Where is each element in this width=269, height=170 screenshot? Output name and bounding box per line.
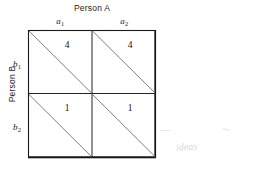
payoff-value-r0c1: 4 — [121, 40, 139, 50]
matrix-grid — [0, 0, 269, 170]
payoff-value-r0c0: 4 — [58, 40, 76, 50]
payoff-value-r1c1: 1 — [121, 103, 139, 113]
payoff-matrix-figure: Person A a1 a2 Person B b1 b2 4 4 1 1 — — [0, 0, 269, 170]
payoff-value-r1c0: 1 — [58, 103, 76, 113]
